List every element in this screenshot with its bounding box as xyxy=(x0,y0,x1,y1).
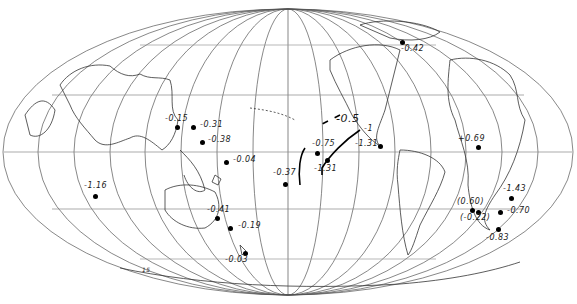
station-dot xyxy=(509,196,514,201)
station-dot xyxy=(325,158,330,163)
station-label: -0.75 xyxy=(312,139,335,148)
station-dot xyxy=(378,144,383,149)
station-dot xyxy=(498,210,503,215)
station-label: (-0.22) xyxy=(460,213,490,222)
station-dot xyxy=(200,140,205,145)
station-dot xyxy=(476,145,481,150)
station-label: -1.31 xyxy=(314,164,337,173)
station-label: -0.70 xyxy=(507,206,530,215)
station-label: -0.41 xyxy=(207,205,230,214)
station-label: -0.15 xyxy=(165,114,188,123)
map-graticule xyxy=(0,0,577,304)
station-label: -0.38 xyxy=(208,135,231,144)
contour-label: -1 xyxy=(364,124,373,133)
station-dot xyxy=(93,194,98,199)
contour-label: -0.5 xyxy=(336,112,359,125)
station-label: -0.37 xyxy=(273,168,296,177)
station-dot xyxy=(496,227,501,232)
corner-label: 15 xyxy=(142,266,151,273)
station-label: -0.31 xyxy=(200,120,223,129)
station-label: (0.60) xyxy=(457,197,484,206)
station-label: -0.19 xyxy=(238,221,261,230)
station-dot xyxy=(191,125,196,130)
station-label: -0.04 xyxy=(233,155,256,164)
station-dot xyxy=(215,216,220,221)
station-dot xyxy=(315,151,320,156)
station-label: -1.43 xyxy=(503,184,526,193)
station-label: -1.16 xyxy=(84,181,107,190)
station-dot xyxy=(228,226,233,231)
station-label: -0.03 xyxy=(225,255,248,264)
station-label: +0.69 xyxy=(458,134,485,143)
station-dot xyxy=(283,182,288,187)
station-label: -1.31 xyxy=(355,139,378,148)
station-label: -0.83 xyxy=(486,233,509,242)
station-label: -0.42 xyxy=(401,44,424,53)
station-dot xyxy=(175,125,180,130)
station-dot xyxy=(224,160,229,165)
